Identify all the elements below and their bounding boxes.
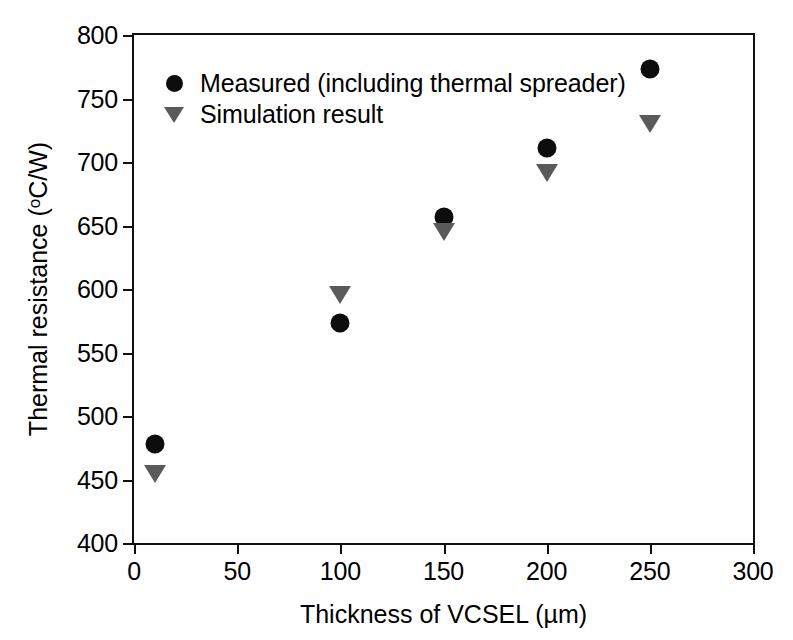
y-axis-title-prefix: Thermal resistance (: [24, 208, 52, 436]
y-axis-tick-label: 400: [77, 529, 118, 558]
triangle-marker-icon: [329, 286, 351, 304]
data-point: [640, 60, 659, 79]
y-axis-tick-label: 600: [77, 275, 118, 304]
y-axis-tick-label: 650: [77, 211, 118, 240]
x-axis-tick-label: 50: [223, 557, 250, 586]
legend: Measured (including thermal spreader) Si…: [160, 68, 626, 130]
degree-symbol: o: [25, 199, 44, 208]
x-axis-tick: [340, 543, 342, 554]
x-axis-tick-label: 300: [732, 557, 773, 586]
y-axis-title: Thermal resistance (oC/W): [14, 33, 56, 545]
y-axis-tick-label: 550: [77, 338, 118, 367]
x-axis-tick: [444, 543, 446, 554]
x-axis-tick: [134, 543, 136, 554]
y-axis-tick-label: 700: [77, 148, 118, 177]
y-axis-tick: [123, 480, 134, 482]
data-point: [329, 286, 351, 304]
y-axis-tick-label: 800: [77, 21, 118, 50]
y-axis-tick: [123, 416, 134, 418]
legend-label-measured: Measured (including thermal spreader): [200, 69, 626, 98]
y-axis-tick: [123, 99, 134, 101]
x-axis-tick: [753, 543, 755, 554]
data-point: [145, 434, 164, 453]
legend-item-simulation: Simulation result: [160, 99, 626, 130]
x-axis-tick: [650, 543, 652, 554]
data-point: [433, 223, 455, 241]
x-axis-title: Thickness of VCSEL (µm): [132, 600, 755, 629]
triangle-marker-icon: [536, 164, 558, 182]
y-axis-title-suffix: C/W): [24, 142, 52, 199]
legend-label-simulation: Simulation result: [200, 100, 383, 129]
triangle-marker-icon: [144, 465, 166, 483]
circle-marker-icon: [145, 434, 164, 453]
x-axis-tick-label: 100: [320, 557, 361, 586]
thermal-resistance-scatter-chart: 4004505005506006507007508000501001502002…: [0, 0, 793, 640]
y-axis-tick-label: 450: [77, 465, 118, 494]
legend-circle-marker-icon: [160, 75, 188, 92]
y-axis-tick: [123, 353, 134, 355]
x-axis-tick-label: 250: [629, 557, 670, 586]
triangle-marker-icon: [639, 115, 661, 133]
x-axis-tick-label: 0: [127, 557, 141, 586]
legend-item-measured: Measured (including thermal spreader): [160, 68, 626, 99]
y-axis-tick: [123, 543, 134, 545]
y-axis-tick: [123, 162, 134, 164]
circle-marker-icon: [537, 139, 556, 158]
legend-triangle-marker-icon: [160, 107, 188, 123]
y-axis-tick-label: 750: [77, 84, 118, 113]
data-point: [537, 139, 556, 158]
y-axis-tick-label: 500: [77, 402, 118, 431]
data-point: [536, 164, 558, 182]
y-axis-tick: [123, 35, 134, 37]
triangle-marker-icon: [433, 223, 455, 241]
x-axis-tick: [547, 543, 549, 554]
x-axis-tick: [237, 543, 239, 554]
x-axis-tick-label: 200: [526, 557, 567, 586]
circle-marker-icon: [331, 314, 350, 333]
circle-marker-icon: [640, 60, 659, 79]
y-axis-tick: [123, 226, 134, 228]
data-point: [639, 115, 661, 133]
data-point: [331, 314, 350, 333]
y-axis-tick: [123, 289, 134, 291]
x-axis-tick-label: 150: [423, 557, 464, 586]
data-point: [144, 465, 166, 483]
